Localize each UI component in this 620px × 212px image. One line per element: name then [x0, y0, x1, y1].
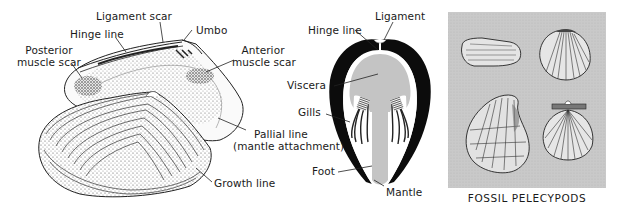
label-viscera: Viscera	[287, 79, 326, 91]
label-hinge-line-section: Hinge line	[308, 24, 362, 36]
label-gills: Gills	[298, 106, 321, 118]
fossil-panel	[448, 12, 606, 188]
label-anterior-muscle-scar-1: Anterior	[232, 44, 294, 56]
label-foot: Foot	[312, 165, 335, 177]
label-mantle: Mantle	[386, 186, 422, 198]
label-ligament-scar: Ligament scar	[96, 10, 172, 22]
fossil-caption: FOSSIL PELECYPODS	[448, 192, 606, 204]
label-growth-line: Growth line	[214, 177, 275, 189]
cross-section-drawing	[329, 39, 431, 184]
label-umbo: Umbo	[196, 24, 227, 36]
label-posterior-muscle-scar-1: Posterior	[17, 44, 81, 56]
fossil-elongate-clam	[462, 38, 521, 66]
label-ligament: Ligament	[375, 10, 425, 22]
label-posterior-muscle-scar-2: muscle scar	[17, 56, 81, 68]
label-anterior-muscle-scar-2: muscle scar	[232, 56, 294, 68]
label-pallial-line-1: Pallial line	[254, 128, 308, 140]
label-hinge-line: Hinge line	[70, 28, 124, 40]
label-pallial-line-2: (mantle attachment)	[233, 140, 344, 152]
